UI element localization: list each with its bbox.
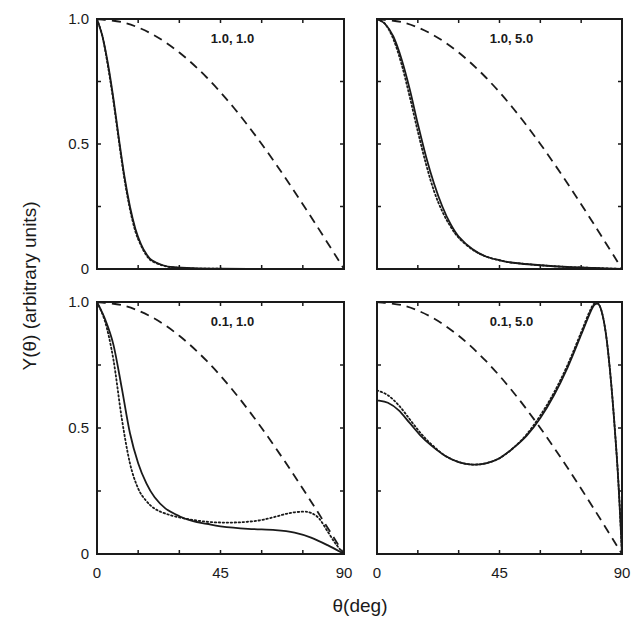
x-tick-label: 0	[373, 564, 381, 581]
panel-top-right: 1.0, 5.0	[377, 19, 622, 269]
curve-dotted	[97, 302, 344, 554]
x-tick-label: 90	[614, 564, 631, 581]
panel-label: 0.1, 1.0	[211, 314, 254, 329]
y-tick-label: 1.0	[68, 10, 89, 27]
panel-top-left: 1.0, 1.000.51.0	[68, 10, 344, 277]
x-tick-label: 90	[336, 564, 353, 581]
curve-dotted	[377, 19, 622, 269]
panel-label: 1.0, 5.0	[490, 31, 533, 46]
panel-frame	[97, 19, 344, 269]
curve-dashed	[377, 19, 622, 269]
y-tick-label: 0.5	[68, 135, 89, 152]
panel-frame	[97, 302, 344, 554]
curve-solid	[97, 19, 344, 269]
y-tick-label: 0	[81, 260, 89, 277]
x-tick-label: 45	[212, 564, 229, 581]
panel-bottom-left: 0.1, 1.000.51.004590	[68, 293, 352, 581]
curve-solid	[97, 302, 344, 554]
panel-label: 1.0, 1.0	[211, 31, 254, 46]
x-tick-label: 45	[491, 564, 508, 581]
figure: 1.0, 1.000.51.01.0, 5.00.1, 1.000.51.004…	[0, 0, 636, 632]
curves	[97, 19, 344, 269]
curves	[377, 19, 622, 269]
x-tick-label: 0	[93, 564, 101, 581]
x-axis-title: θ(deg)	[333, 595, 388, 616]
y-tick-label: 1.0	[68, 293, 89, 310]
curve-dotted	[97, 19, 344, 269]
curve-dashed	[97, 19, 344, 269]
curves	[97, 302, 344, 554]
panels-group: 1.0, 1.000.51.01.0, 5.00.1, 1.000.51.004…	[68, 10, 630, 581]
y-tick-label: 0.5	[68, 419, 89, 436]
y-tick-label: 0	[81, 545, 89, 562]
panel-bottom-right: 0.1, 5.004590	[373, 302, 631, 581]
curve-solid	[377, 19, 622, 269]
y-axis-title: Y(θ) (arbitrary units)	[19, 202, 40, 371]
curve-solid	[377, 304, 622, 554]
curve-dashed	[97, 302, 344, 554]
panel-frame	[377, 19, 622, 269]
curves	[377, 302, 622, 554]
panel-label: 0.1, 5.0	[490, 314, 533, 329]
